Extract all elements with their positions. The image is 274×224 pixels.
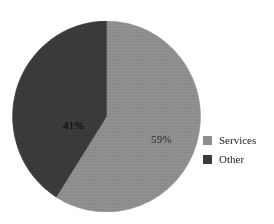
pie-chart-figure: 41% 59% Services Other: [0, 0, 274, 224]
legend-swatch-other-icon: [203, 155, 212, 164]
legend-label-services: Services: [219, 135, 256, 146]
legend-item-services[interactable]: Services: [203, 131, 273, 150]
pie-chart-plot-area: 41% 59%: [12, 21, 201, 212]
pie-label-other: 41%: [63, 119, 84, 131]
pie-label-services: 59%: [151, 133, 172, 145]
chart-legend: Services Other: [203, 131, 273, 169]
legend-label-other: Other: [219, 154, 244, 165]
legend-swatch-services-icon: [203, 136, 212, 145]
pie-chart-svg: [12, 21, 201, 212]
legend-item-other[interactable]: Other: [203, 150, 273, 169]
